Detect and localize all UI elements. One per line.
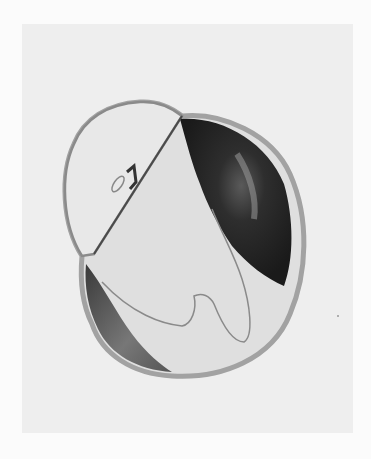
micrograph-plate — [22, 24, 353, 433]
eye-section-image — [22, 24, 353, 433]
